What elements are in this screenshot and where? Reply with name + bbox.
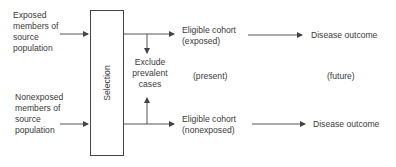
selection-box: Selection (90, 10, 124, 156)
label-line: (exposed) (182, 36, 236, 47)
time-label-future: (future) (327, 71, 355, 82)
disease-outcome-exposed: Disease outcome (311, 30, 377, 41)
label-line: Exposed (13, 10, 58, 21)
label-line: Eligible cohort (182, 25, 236, 36)
label-line: cases (128, 79, 172, 90)
label-line: source (15, 114, 63, 125)
label-line: population (13, 43, 58, 54)
eligible-cohort-nonexposed: Eligible cohort (nonexposed) (182, 114, 236, 136)
exposed-source-label: Exposed members of source population (13, 10, 58, 54)
label-line: Eligible cohort (182, 114, 236, 125)
label-line: (nonexposed) (182, 125, 236, 136)
disease-outcome-nonexposed: Disease outcome (313, 119, 379, 130)
label-line: source (13, 32, 58, 43)
label-line: members of (15, 103, 63, 114)
label-line: Nonexposed (15, 92, 63, 103)
label-line: prevalent (128, 68, 172, 79)
eligible-cohort-exposed: Eligible cohort (exposed) (182, 25, 236, 47)
label-line: members of (13, 21, 58, 32)
selection-label: Selection (102, 65, 112, 100)
time-label-present: (present) (193, 71, 227, 82)
exclusion-label: Exclude prevalent cases (128, 57, 172, 90)
nonexposed-source-label: Nonexposed members of source population (15, 92, 63, 136)
label-line: population (15, 125, 63, 136)
label-line: Exclude (128, 57, 172, 68)
